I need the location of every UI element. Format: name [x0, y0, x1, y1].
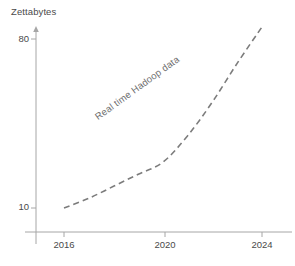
x-tick-label-2024: 2024 [242, 239, 282, 250]
y-axis-title: Zettabytes [11, 6, 56, 17]
data-series-line [64, 27, 262, 208]
chart-container: Zettabytes 80 10 2016 2020 2024 Real tim… [0, 0, 295, 266]
y-tick-label-80: 80 [7, 33, 29, 44]
y-axis-arrow-icon [33, 26, 39, 32]
chart-plot-area [0, 0, 295, 266]
y-tick-label-10: 10 [7, 201, 29, 212]
x-tick-label-2016: 2016 [44, 239, 84, 250]
x-tick-label-2020: 2020 [145, 239, 185, 250]
